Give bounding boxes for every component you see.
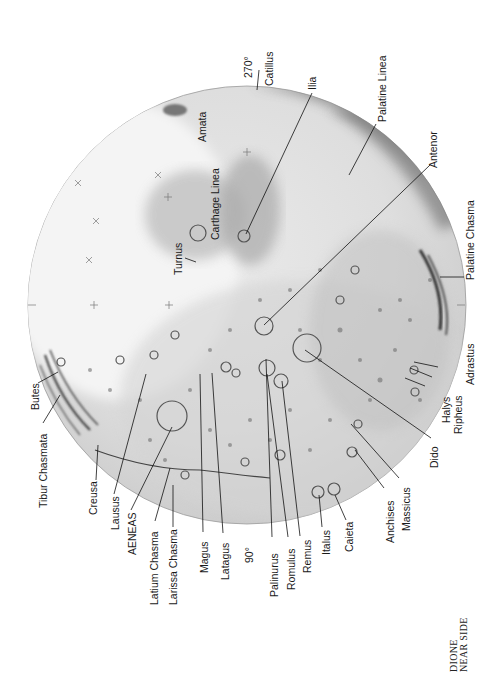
label-palinurus: Palinurus xyxy=(268,553,280,597)
label-latagus: Latagus xyxy=(219,543,231,580)
label-caieta: Caieta xyxy=(343,521,355,552)
label-butes: Butes xyxy=(29,383,41,410)
label-carthage-linea: Carthage Linea xyxy=(209,168,221,240)
label-massicus: Massicus xyxy=(400,487,412,531)
label-ripheus: Ripheus xyxy=(452,395,464,434)
label-dido: Dido xyxy=(428,446,440,468)
label-palatine-chasma: Palatine Chasma xyxy=(464,200,476,280)
caption-line-2: NEAR SIDE xyxy=(458,617,469,672)
label-lon-90: 90° xyxy=(243,547,255,563)
label-catillus: Catillus xyxy=(263,52,275,86)
label-remus: Remus xyxy=(301,540,313,573)
label-amata: Amata xyxy=(196,111,208,142)
label-anchises: Anchises xyxy=(384,500,396,543)
label-ilia: Ilia xyxy=(306,76,318,90)
label-halys: Halys xyxy=(440,397,452,423)
label-italus: Italus xyxy=(320,530,332,555)
label-romulus: Romulus xyxy=(285,549,297,590)
label-aeneas: AENEAS xyxy=(126,512,138,555)
label-creusa: Creusa xyxy=(87,481,99,515)
label-lausus: Lausus xyxy=(109,496,121,530)
label-magus: Magus xyxy=(198,541,210,573)
label-latium-chasma: Latium Chasma xyxy=(148,531,160,605)
label-adrastus: Adrastus xyxy=(464,344,476,385)
label-larissa-chasma: Larissa Chasma xyxy=(167,529,179,605)
label-tibur-chasmata: Tibur Chasmata xyxy=(37,434,49,508)
moon-disc xyxy=(0,80,480,524)
label-antenor: Antenor xyxy=(427,131,439,168)
label-palatine-linea: Palatine Linea xyxy=(376,55,388,122)
label-turnus: Turnus xyxy=(172,243,184,275)
label-lon-270: 270° xyxy=(242,56,254,78)
dione-near-side-map: 270° Catillus Ilia Palatine Linea Anteno… xyxy=(0,0,502,679)
map-caption: DIONE NEAR SIDE xyxy=(448,617,469,672)
